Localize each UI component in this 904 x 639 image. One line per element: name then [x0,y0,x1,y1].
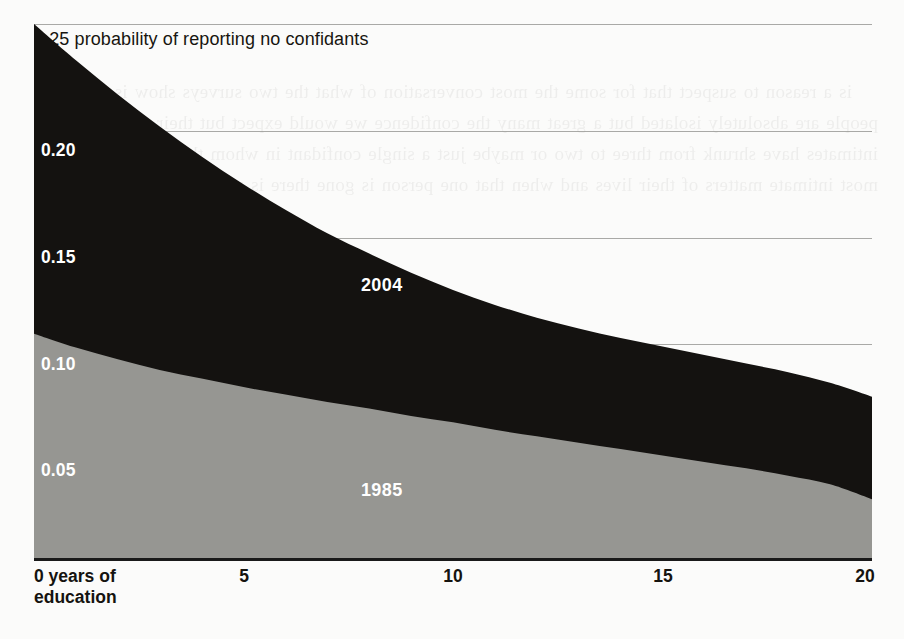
ytick-label-0.20: 0.20 [41,142,75,160]
xtick-label-5: 5 [239,566,249,587]
stacked-area-paths [34,24,872,558]
plot-area: 0.20 0.15 0.10 0.05 2004 1985 [34,24,872,558]
series-label-2004: 2004 [361,276,403,294]
xtick-label-20: 20 [855,566,874,587]
ytick-label-0.05: 0.05 [41,462,75,480]
series-label-1985: 1985 [361,481,403,499]
xtick-label-15: 15 [653,566,672,587]
ytick-label-0.10: 0.10 [41,356,75,374]
xtick-label-0: 0 years of education [34,566,117,608]
figure-area-chart: 0.25 probability of reporting no confida… [0,0,904,639]
ytick-label-0.15: 0.15 [41,249,75,267]
xtick-label-10: 10 [443,566,462,587]
x-axis-line [34,558,872,561]
